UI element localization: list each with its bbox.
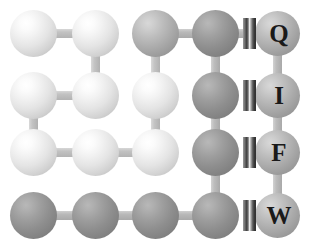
residue-label-w: W [255, 193, 300, 238]
lattice-node [132, 129, 179, 176]
residue-label-f: F [255, 130, 300, 175]
lattice-node [72, 129, 119, 176]
residue-label-i: I [255, 73, 300, 118]
lattice-node [192, 129, 239, 176]
terminal-bar-marker-icon [243, 80, 256, 111]
lattice-node [72, 192, 119, 239]
lattice-node [10, 72, 57, 119]
residue-node-q: Q [255, 11, 300, 56]
residue-node-w: W [255, 193, 300, 238]
terminal-bar-marker-icon [243, 18, 256, 49]
terminal-bar-marker-icon [243, 137, 256, 168]
residue-node-f: F [255, 130, 300, 175]
lattice-node [10, 129, 57, 176]
lattice-node [10, 10, 57, 57]
lattice-node [132, 10, 179, 57]
lattice-node [192, 10, 239, 57]
residue-label-q: Q [255, 11, 300, 56]
lattice-node [192, 192, 239, 239]
lattice-node [132, 72, 179, 119]
lattice-node [72, 10, 119, 57]
lattice-node [132, 192, 179, 239]
lattice-node [72, 72, 119, 119]
lattice-node [10, 192, 57, 239]
residue-node-i: I [255, 73, 300, 118]
lattice-node [192, 72, 239, 119]
lattice-diagram-canvas: QIFW [0, 0, 311, 249]
terminal-bar-marker-icon [243, 200, 256, 231]
